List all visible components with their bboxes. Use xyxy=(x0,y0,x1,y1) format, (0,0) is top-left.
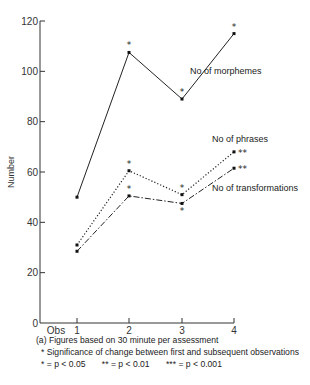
sig-legend-p0001: *** = p < 0.001 xyxy=(166,359,222,369)
significance-mark: * xyxy=(180,183,185,193)
line-chart: 020406080100120Number1234Obs***No of mor… xyxy=(0,0,310,385)
y-tick-label: 60 xyxy=(27,167,39,178)
data-point xyxy=(233,150,236,153)
data-point xyxy=(181,202,184,205)
significance-mark: ** xyxy=(238,164,248,174)
data-point xyxy=(76,250,79,253)
data-point xyxy=(76,196,79,199)
series-line-no-of-morphemes xyxy=(77,34,234,198)
significance-mark: ** xyxy=(238,148,248,158)
series-label: No of morphemes xyxy=(190,66,262,76)
sig-legend-p005: * = p < 0.05 xyxy=(41,359,85,369)
significance-mark: * xyxy=(180,87,185,97)
data-point xyxy=(181,193,184,196)
y-tick-label: 40 xyxy=(27,217,39,228)
y-tick-label: 20 xyxy=(27,267,39,278)
y-tick-label: 80 xyxy=(27,116,39,127)
y-tick-label: 0 xyxy=(32,318,38,329)
y-tick-label: 100 xyxy=(21,66,38,77)
series-line-no-of-transformations xyxy=(77,168,234,251)
note-significance: * Significance of change between first a… xyxy=(36,346,299,358)
significance-legend: * = p < 0.05 ** = p < 0.01 *** = p < 0.0… xyxy=(36,358,299,370)
series-label: No of transformations xyxy=(212,183,299,193)
data-point xyxy=(128,194,131,197)
chart-notes: (a) Figures based on 30 minute per asses… xyxy=(36,334,299,370)
series-line-no-of-phrases xyxy=(77,152,234,245)
significance-mark: * xyxy=(180,206,185,216)
data-point xyxy=(233,167,236,170)
significance-mark: * xyxy=(127,40,132,50)
data-point xyxy=(128,51,131,54)
y-tick-label: 120 xyxy=(21,16,38,27)
data-point xyxy=(76,243,79,246)
significance-mark: * xyxy=(127,159,132,169)
significance-mark: * xyxy=(232,22,237,32)
sig-legend-p001: ** = p < 0.01 xyxy=(102,359,150,369)
significance-mark: * xyxy=(127,184,132,194)
series-label: No of phrases xyxy=(212,134,269,144)
data-point xyxy=(128,169,131,172)
data-point xyxy=(181,98,184,101)
y-axis-title: Number xyxy=(6,156,16,188)
data-point xyxy=(233,32,236,35)
note-figures-basis: (a) Figures based on 30 minute per asses… xyxy=(36,334,299,346)
